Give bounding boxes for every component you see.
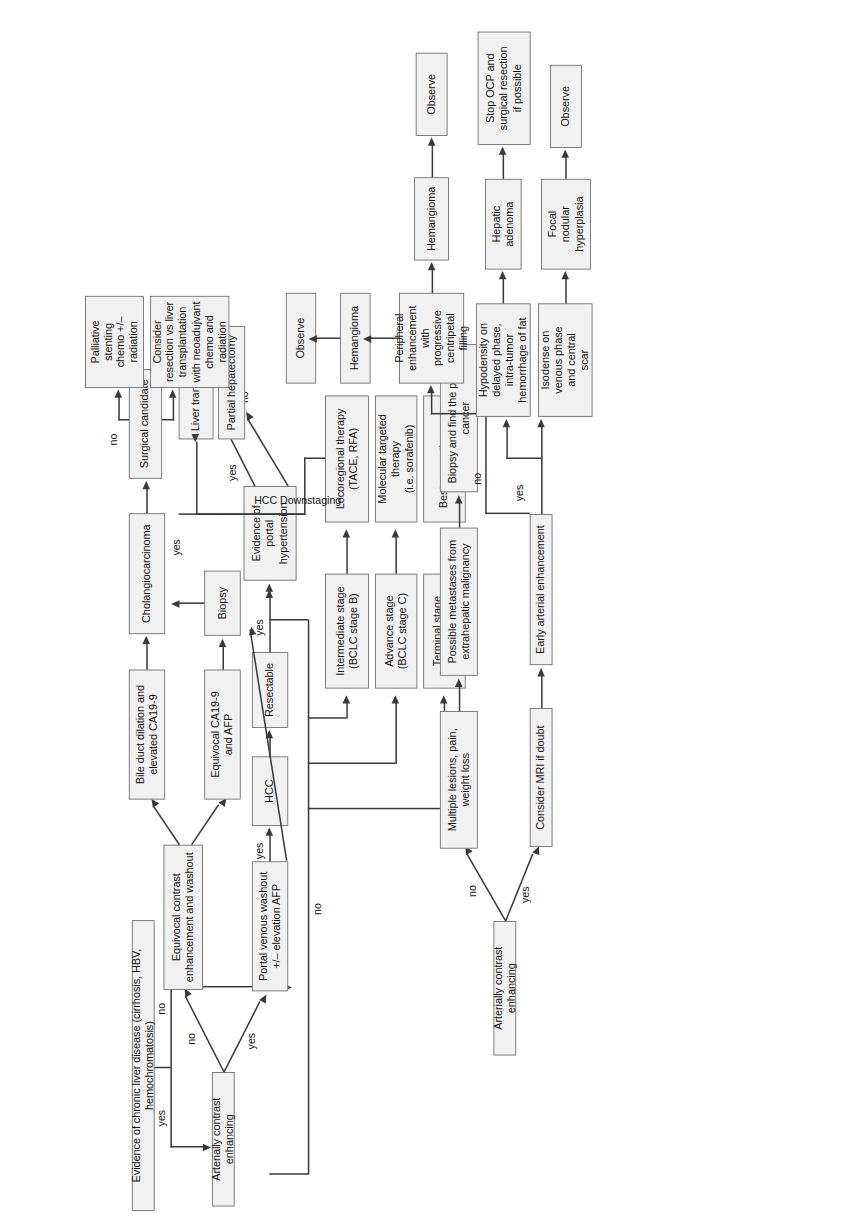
flowchart-canvas: Evidence of chronic liver disease (cirrh… bbox=[106, 9, 758, 1217]
connector-arrow bbox=[498, 271, 506, 279]
node-equivocal-contrast-enhancement: Equivocal contrast enhancement and washo… bbox=[163, 845, 202, 990]
node-palliative-stenting: Palliative stenting chemo +/– radiation bbox=[85, 296, 144, 388]
edge-label-surgical-no: no bbox=[107, 434, 118, 446]
connector-arrow bbox=[427, 137, 435, 145]
node-possible-metastases: Possible metastases from extrahepatic ma… bbox=[439, 528, 477, 676]
node-hemangioma: Hemangioma bbox=[414, 177, 449, 260]
node-molecular-targeted-therapy: Molecular targeted therapy (i.e. sorafen… bbox=[374, 396, 416, 523]
edge-label-chronic-yes: yes bbox=[156, 1110, 167, 1126]
edge-label-early-no: no bbox=[471, 473, 482, 485]
node-consider-mri: Consider MRI if doubt bbox=[529, 708, 552, 847]
flowchart-screenshot: Evidence of chronic liver disease (cirrh… bbox=[0, 0, 863, 1226]
connector-arrow bbox=[427, 262, 435, 270]
edge-label-early-yes: yes bbox=[513, 485, 524, 501]
connector-arrow bbox=[561, 149, 569, 157]
node-hepatic-adenoma: Hepatic adenoma bbox=[485, 179, 521, 270]
node-hcc: HCC bbox=[251, 756, 287, 825]
node-observe-2: Observe bbox=[550, 65, 582, 148]
connector-line bbox=[502, 153, 503, 179]
node-stop-ocp: Stop OCP and surgical resection if possi… bbox=[477, 32, 530, 145]
node-intermediate-stage: Intermediate stage (BCLC stage B) bbox=[325, 574, 369, 689]
edge-label-resect-no: no bbox=[311, 903, 322, 915]
edge-label-porthtn-yes: yes bbox=[227, 464, 238, 480]
node-cholangiocarcinoma: Cholangiocarcinoma bbox=[128, 513, 164, 634]
connector-arrow bbox=[498, 146, 506, 154]
node-peripheral-enhancement: Peripheral enhancement with progressive … bbox=[399, 293, 464, 384]
node-resectable: Resectable bbox=[251, 652, 287, 728]
edge-label-art2-no: no bbox=[467, 885, 478, 897]
node-equivocal-ca199-afp: Equivocal CA19-9 and AFP bbox=[204, 670, 240, 800]
node-arterially-contrast-enhancing-right: Arterially contrast enhancing bbox=[493, 921, 516, 1055]
edge-label-art1-yes: yes bbox=[245, 1033, 256, 1049]
node-biopsy: Biopsy bbox=[204, 571, 240, 636]
connector-arrow bbox=[561, 271, 569, 279]
edge-label-art2-yes: yes bbox=[519, 886, 530, 902]
node-bile-duct-dilation: Bile duct dilation and elevated CA19-9 bbox=[128, 670, 164, 800]
node-consider-resection-vs-transplant: Consider resection vs liver transplantat… bbox=[150, 296, 229, 388]
edge-label-hcc-yes: yes bbox=[253, 843, 264, 859]
node-arterially-contrast-enhancing-left: Arterially contrast enhancing bbox=[211, 1072, 234, 1206]
node-observe-1: Observe bbox=[415, 53, 447, 136]
node-portal-venous-washout: Portal venous washout +/– elevation AFP bbox=[251, 861, 287, 991]
edge-label-biopsy-yes: yes bbox=[171, 539, 182, 555]
edge-label-chronic-no: no bbox=[156, 1003, 167, 1015]
node-advance-stage: Advance stage (BCLC stage C) bbox=[374, 574, 416, 689]
node-focal-nodular-hyperplasia: Focal nodular hyperplasia bbox=[541, 179, 591, 270]
node-multiple-lesions: Multiple lesions, pain, weight loss bbox=[439, 711, 477, 848]
node-early-arterial-enhancement: Early arterial enhancement bbox=[529, 514, 552, 665]
connector-line bbox=[431, 269, 432, 293]
node-isodense-venous: Isodense on venous phase and central sca… bbox=[538, 303, 592, 416]
connector-line bbox=[502, 278, 503, 304]
node-chronic-liver-disease: Evidence of chronic liver disease (cirrh… bbox=[131, 920, 154, 1211]
node-hypodensity-delayed-phase: Hypodensity on delayed phase, intra-tumo… bbox=[476, 303, 530, 416]
connector-line bbox=[431, 144, 432, 177]
edge-label-art1-no: no bbox=[186, 1033, 197, 1045]
edge-label-hcc-downstaging: HCC Downstaging bbox=[254, 494, 341, 505]
connector-line bbox=[565, 156, 566, 179]
connector-line bbox=[565, 278, 566, 304]
